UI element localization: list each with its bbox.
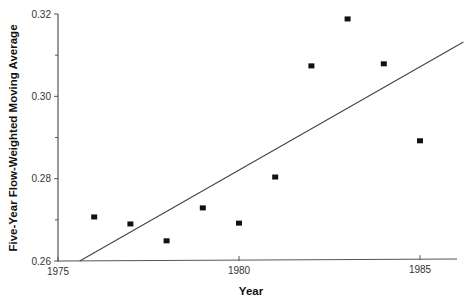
- x-tick-label: 1980: [228, 265, 251, 276]
- data-point-marker: [308, 63, 314, 68]
- data-point-marker: [91, 214, 97, 219]
- data-points: [91, 16, 423, 243]
- y-tick-label: 0.28: [32, 173, 52, 184]
- data-point-marker: [127, 221, 133, 226]
- data-point-marker: [417, 138, 423, 143]
- y-tick-label: 0.32: [32, 9, 52, 20]
- trend-line: [80, 42, 464, 261]
- data-point-marker: [272, 175, 278, 180]
- data-point-marker: [164, 238, 170, 243]
- y-axis-title: Five-Year Flow-Weighted Moving Average: [7, 24, 19, 251]
- data-point-marker: [200, 205, 206, 210]
- x-tick-label: 1985: [409, 264, 432, 275]
- y-tick-label: 0.26: [32, 256, 52, 267]
- data-point-marker: [345, 16, 351, 21]
- trend-line-segment: [80, 42, 464, 261]
- x-tick-label: 1975: [47, 266, 70, 277]
- data-point-marker: [381, 61, 387, 66]
- axes: 0.260.280.300.32197519801985: [32, 9, 457, 278]
- x-axis-title: Year: [239, 285, 264, 297]
- data-point-marker: [236, 221, 242, 226]
- x-axis-line: [58, 259, 457, 261]
- y-tick-label: 0.30: [32, 91, 52, 102]
- scatter-chart: 0.260.280.300.32197519801985 Year Five-Y…: [0, 0, 465, 305]
